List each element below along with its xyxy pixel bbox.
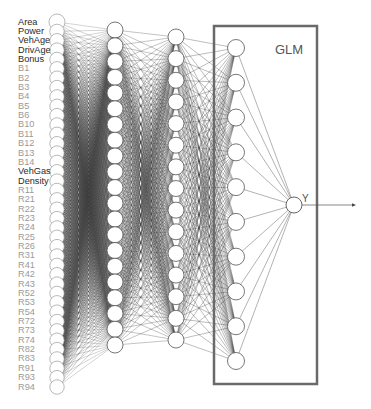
hidden-node	[107, 132, 123, 148]
hidden-node	[228, 318, 245, 335]
input-label: R94	[18, 382, 35, 392]
hidden-node	[107, 117, 123, 133]
hidden-node	[168, 94, 184, 110]
hidden-node	[107, 321, 123, 337]
hidden-node	[107, 101, 123, 117]
hidden-node	[228, 353, 245, 370]
hidden-node	[107, 38, 123, 54]
hidden-node	[168, 289, 184, 305]
hidden-node	[228, 283, 245, 300]
hidden-node	[107, 22, 123, 38]
hidden-node	[107, 211, 123, 227]
hidden-node	[168, 137, 184, 153]
hidden-node	[107, 180, 123, 196]
hidden-node	[107, 258, 123, 274]
hidden-node	[168, 159, 184, 175]
arrow-head-icon	[352, 203, 356, 207]
hidden-node	[168, 181, 184, 197]
hidden-node	[107, 274, 123, 290]
hidden-node	[168, 29, 184, 45]
hidden-node	[228, 144, 245, 161]
output-label: Y	[302, 193, 309, 204]
output-node	[286, 197, 302, 213]
hidden-node	[228, 248, 245, 265]
hidden-node	[107, 290, 123, 306]
input-node	[50, 380, 64, 394]
hidden-node	[168, 202, 184, 218]
hidden-node	[107, 243, 123, 259]
hidden-node	[168, 245, 184, 261]
hidden-node	[107, 69, 123, 85]
hidden-node	[168, 224, 184, 240]
glm-label: GLM	[275, 42, 303, 57]
hidden-node	[228, 74, 245, 91]
hidden-node	[107, 195, 123, 211]
neural-network-diagram: AreaPowerVehAgeDrivAgeBonusB1B2B3B4B5B6B…	[0, 0, 371, 409]
hidden-node	[107, 337, 123, 353]
hidden-node	[107, 306, 123, 322]
hidden-node	[228, 179, 245, 196]
network-graph	[0, 0, 371, 409]
hidden-node	[168, 72, 184, 88]
hidden-node	[228, 213, 245, 230]
hidden-node	[168, 116, 184, 132]
hidden-node	[168, 51, 184, 67]
hidden-node	[168, 332, 184, 348]
hidden-node	[107, 148, 123, 164]
hidden-node	[168, 310, 184, 326]
hidden-node	[228, 109, 245, 126]
hidden-node	[228, 40, 245, 57]
hidden-node	[107, 85, 123, 101]
hidden-node	[107, 54, 123, 70]
hidden-node	[107, 164, 123, 180]
hidden-node	[168, 267, 184, 283]
hidden-node	[107, 227, 123, 243]
